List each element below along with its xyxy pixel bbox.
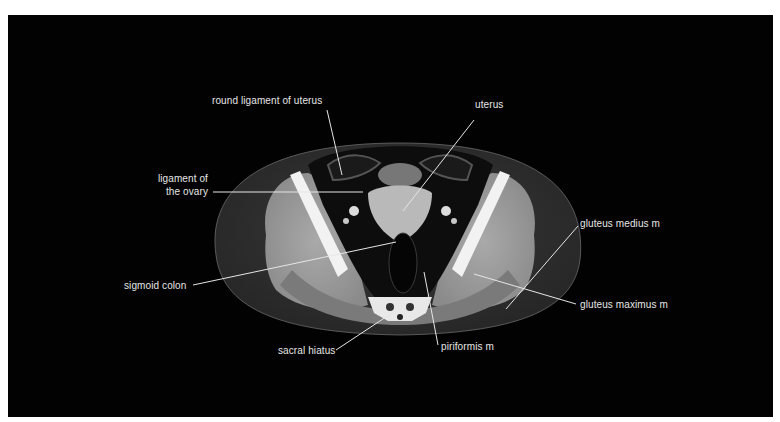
label-ligament-of-the-ovary-line1: ligament of xyxy=(148,172,208,185)
label-uterus: uterus xyxy=(475,98,503,111)
label-ligament-of-the-ovary-line2: the ovary xyxy=(148,185,208,198)
label-round-ligament-of-uterus: round ligament of uterus xyxy=(212,94,322,107)
label-gluteus-medius: gluteus medius m xyxy=(580,217,660,230)
ct-pelvis-scan xyxy=(8,15,773,417)
ct-image-frame: round ligament of uterus uterus gluteus … xyxy=(8,15,773,417)
sigmoid-colon-shape xyxy=(389,233,417,293)
label-sacral-hiatus: sacral hiatus xyxy=(278,344,335,357)
label-sigmoid-colon: sigmoid colon xyxy=(124,279,186,292)
label-piriformis: piriformis m xyxy=(441,340,494,353)
label-gluteus-maximus: gluteus maximus m xyxy=(580,298,668,311)
